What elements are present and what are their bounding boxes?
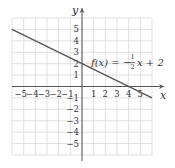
x-tick-label: −4: [26, 89, 39, 99]
fraction-numerator: 1: [131, 53, 135, 61]
svg-text:f(x) = −: f(x) = −: [90, 57, 131, 68]
x-axis-label: x: [160, 89, 167, 102]
function-graph: −5−4−3−2−112345−5−4−3−2−112345 x y f(x) …: [0, 0, 175, 168]
y-tick-label: −3: [66, 116, 79, 126]
y-tick-label: −4: [66, 127, 79, 137]
x-tick-label: 2: [103, 89, 108, 99]
x-tick-label: 1: [91, 89, 96, 99]
svg-text:x + 2: x + 2: [137, 57, 164, 68]
y-tick-label: 5: [74, 24, 79, 34]
y-tick-label: 3: [74, 47, 79, 57]
y-tick-label: 1: [74, 70, 79, 80]
y-tick-label: 4: [74, 36, 79, 46]
x-tick-label: 4: [126, 89, 131, 99]
fraction-denominator: 2: [131, 63, 135, 71]
x-tick-label: 3: [114, 89, 119, 99]
x-tick-label: −2: [49, 89, 62, 99]
axes: [12, 8, 164, 161]
y-axis-label: y: [71, 4, 79, 17]
function-label: f(x) = − 1 2 x + 2: [90, 53, 164, 71]
x-tick-label: −3: [38, 89, 51, 99]
y-tick-label: −1: [66, 93, 79, 103]
x-tick-label: −5: [14, 89, 27, 99]
y-tick-label: −2: [66, 104, 79, 114]
y-tick-label: −5: [66, 139, 79, 149]
